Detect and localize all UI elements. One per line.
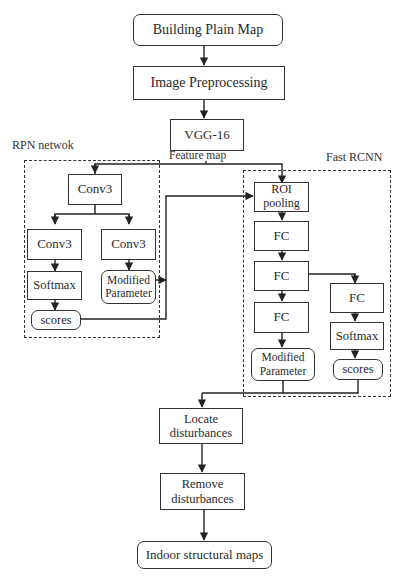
fast-rcnn-softmax-node: Softmax <box>330 322 384 350</box>
rpn-scores-node: scores <box>31 310 81 330</box>
building-plain-map-node: Building Plain Map <box>133 14 283 46</box>
rpn-group-label: RPN netwok <box>12 138 74 153</box>
fast-rcnn-scores-node: scores <box>333 359 383 380</box>
fast-rcnn-fc2-node: FC <box>254 261 309 291</box>
fast-rcnn-fc-branch-node: FC <box>330 283 384 313</box>
fast-rcnn-modified-parameter-node: Modified Parameter <box>251 348 315 381</box>
locate-disturbances-node: Locate disturbances <box>159 408 243 444</box>
rpn-modified-parameter-node: Modified Parameter <box>101 270 156 304</box>
rpn-conv3-right-node: Conv3 <box>101 229 156 260</box>
rpn-softmax-node: Softmax <box>27 271 82 300</box>
rpn-conv3-left-node: Conv3 <box>27 229 82 260</box>
image-preprocessing-node: Image Preprocessing <box>133 66 285 100</box>
remove-disturbances-node: Remove disturbances <box>160 473 245 510</box>
vgg16-node: VGG-16 <box>170 119 244 151</box>
fast-rcnn-fc1-node: FC <box>254 221 309 251</box>
indoor-structural-maps-node: Indoor structural maps <box>137 541 272 569</box>
rpn-conv3-top-node: Conv3 <box>68 174 122 205</box>
fast-rcnn-fc3-node: FC <box>254 302 309 333</box>
roi-pooling-node: ROI pooling <box>254 182 309 212</box>
fast-rcnn-group-label: Fast RCNN <box>326 150 382 165</box>
